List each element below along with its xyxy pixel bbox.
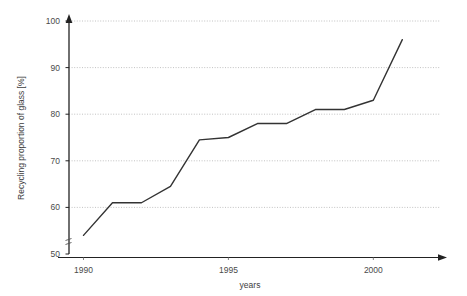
- y-tick-label: 80: [51, 109, 61, 119]
- y-tick-label: 100: [46, 16, 60, 26]
- y-axis-title: Recycling proportion of glass [%]: [16, 76, 26, 200]
- line-chart: 5060708090100 199019952000 Recycling pro…: [0, 0, 467, 296]
- x-axis-title: years: [240, 280, 261, 290]
- chart-background: [0, 0, 467, 296]
- x-tick-label: 1995: [219, 265, 238, 275]
- y-tick-label: 60: [51, 202, 61, 212]
- y-tick-label: 50: [51, 249, 61, 259]
- chart-container: 5060708090100 199019952000 Recycling pro…: [0, 0, 467, 296]
- y-tick-label: 70: [51, 156, 61, 166]
- x-tick-label: 2000: [364, 265, 383, 275]
- y-tick-label: 90: [51, 63, 61, 73]
- x-tick-label: 1990: [74, 265, 93, 275]
